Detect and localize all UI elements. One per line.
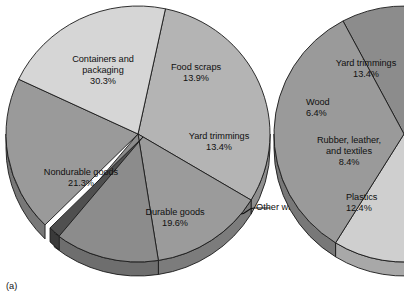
pie-chart-b-graphic (292, 0, 404, 299)
pie-chart-a-graphic (0, 0, 300, 299)
pie-chart-panel-a: Containers and packaging 30.3% Food scra… (0, 0, 300, 299)
pie-top-faces (274, 6, 404, 262)
waste-composition-figure: Containers and packaging 30.3% Food scra… (0, 0, 404, 299)
panel-caption-a: (a) (6, 281, 17, 291)
pie-chart-panel-b: Yard trimmings 13.4% Wood 6.4% Rubber, l… (292, 0, 404, 299)
pie-top-faces (6, 6, 270, 262)
pie-slice-label-line1: Other (256, 202, 279, 212)
